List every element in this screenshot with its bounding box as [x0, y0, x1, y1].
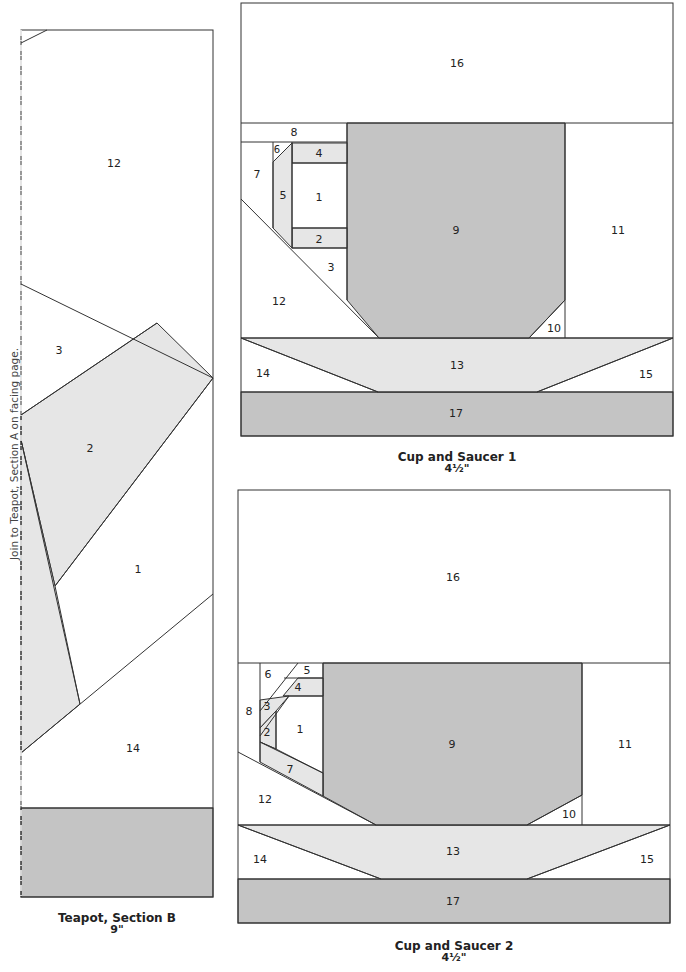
cup2-label-4: 4: [295, 681, 302, 694]
teapot-label-1: 1: [135, 563, 142, 576]
teapot-bottom-band: [21, 808, 213, 897]
cup2-label-3: 3: [264, 700, 271, 713]
pattern-canvas: 12 3 2 1 14 Join to Teapot, Section A on…: [0, 0, 686, 972]
cup2-label-1: 1: [297, 723, 304, 736]
cup2-piece-4: [283, 678, 323, 696]
cup2-label-11: 11: [618, 738, 632, 751]
teapot-join-note: Join to Teapot, Section A on facing page…: [8, 348, 20, 561]
cup2-caption-size: 4½": [238, 952, 670, 964]
cup2-label-12: 12: [258, 793, 272, 806]
cup1-label-12: 12: [272, 295, 286, 308]
teapot-piece-2: [21, 323, 213, 586]
cup1-label-2: 2: [316, 233, 323, 246]
cup2-label-16: 16: [446, 571, 460, 584]
cup2-label-15: 15: [640, 853, 654, 866]
cup2-label-9: 9: [449, 738, 456, 751]
cup1-caption-size: 4½": [241, 463, 673, 475]
teapot-label-12: 12: [107, 157, 121, 170]
cup1-label-15: 15: [639, 368, 653, 381]
cup1-label-14: 14: [256, 367, 270, 380]
cup2-label-5: 5: [304, 664, 311, 677]
cup2-label-2: 2: [264, 726, 271, 739]
cup1-caption: Cup and Saucer 1 4½": [241, 451, 673, 475]
cup-saucer-2: [238, 490, 670, 923]
cup1-label-11: 11: [611, 224, 625, 237]
cup1-label-1: 1: [316, 191, 323, 204]
teapot-label-14: 14: [126, 742, 140, 755]
teapot-label-3: 3: [56, 344, 63, 357]
cup1-label-6: 6: [274, 144, 280, 155]
cup1-label-9: 9: [453, 224, 460, 237]
cup1-label-10: 10: [547, 322, 561, 335]
cup1-label-13: 13: [450, 359, 464, 372]
cup1-label-3: 3: [328, 261, 335, 274]
cup2-label-10: 10: [562, 808, 576, 821]
cup2-label-7: 7: [287, 763, 294, 776]
cup1-label-16: 16: [450, 57, 464, 70]
cup2-caption: Cup and Saucer 2 4½": [238, 940, 670, 964]
cup2-label-8: 8: [246, 705, 253, 718]
teapot-label-2: 2: [87, 442, 94, 455]
cup2-label-17: 17: [446, 895, 460, 908]
cup1-label-8: 8: [291, 126, 298, 139]
cup1-label-5: 5: [280, 189, 287, 202]
cup2-label-13: 13: [446, 845, 460, 858]
cup1-label-7: 7: [254, 168, 261, 181]
cup1-label-17: 17: [449, 407, 463, 420]
teapot-caption-size: 9": [20, 924, 214, 936]
teapot-caption: Teapot, Section B 9": [20, 912, 214, 936]
cup2-label-14: 14: [253, 853, 267, 866]
cup1-label-4: 4: [316, 147, 323, 160]
cup2-label-6: 6: [265, 668, 272, 681]
